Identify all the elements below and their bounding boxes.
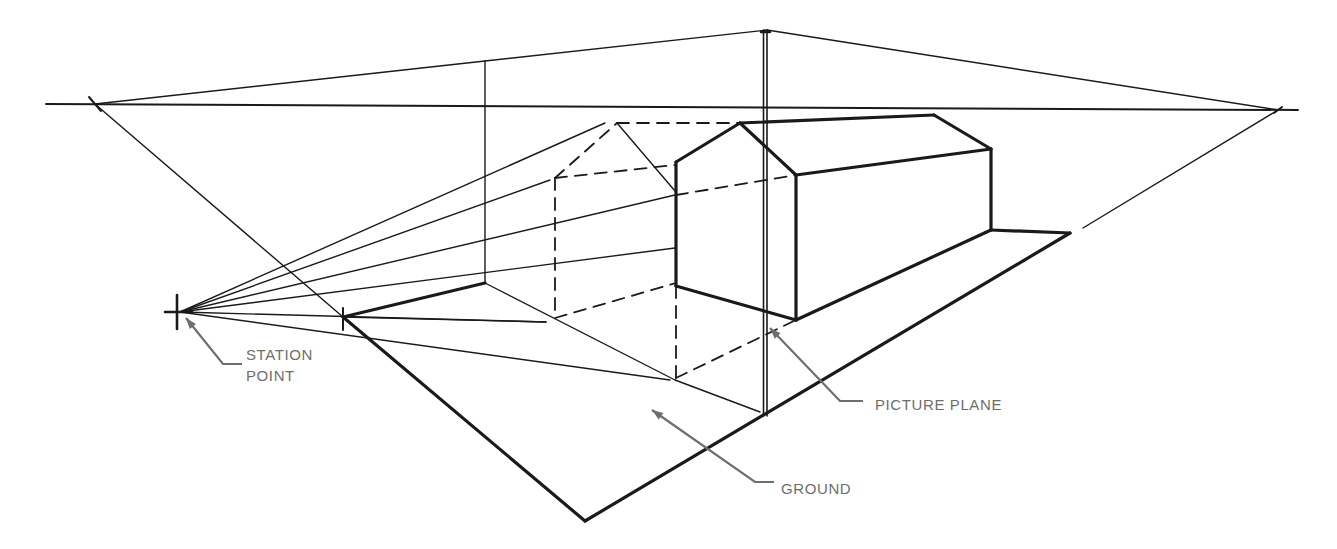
object-edge: [740, 123, 796, 175]
construction-line: [180, 180, 550, 312]
construction-line: [485, 30, 767, 61]
hidden-line: [555, 165, 675, 178]
station-point-marker: [165, 295, 192, 329]
object-edge: [991, 230, 1070, 233]
horizon-line: [46, 97, 1298, 113]
perspective-diagram: [0, 0, 1337, 549]
picture-plane-label-text: PICTURE PLANE: [875, 394, 1002, 415]
construction-line: [485, 283, 675, 380]
construction-line: [180, 248, 675, 312]
construction-line: [180, 123, 605, 312]
hidden-line: [676, 175, 796, 195]
arrowhead-icon: [652, 410, 663, 420]
construction-line: [617, 123, 675, 191]
station-point-label-line-1: STATION: [246, 344, 313, 365]
picture-plane: [761, 30, 770, 416]
construction-line: [675, 380, 760, 412]
thick-object-lines: [343, 115, 1070, 521]
construction-line: [1083, 110, 1278, 228]
object-edge: [343, 317, 585, 521]
object-edge: [676, 286, 796, 320]
hidden-line: [555, 283, 676, 318]
object-edge: [796, 230, 991, 320]
station-point-label: STATION POINT: [246, 344, 313, 386]
horizon-line: [46, 104, 1298, 110]
construction-line: [95, 61, 485, 104]
construction-line: [95, 104, 343, 317]
station-point-label-line-2: POINT: [246, 365, 313, 386]
object-edge: [740, 115, 934, 123]
ground-label: GROUND: [781, 478, 851, 499]
object-edge: [934, 115, 991, 149]
ground-label-text: GROUND: [781, 478, 851, 499]
hidden-line: [676, 320, 796, 378]
object-edge: [676, 123, 740, 162]
construction-line: [180, 195, 675, 312]
picture-plane-label: PICTURE PLANE: [875, 394, 1002, 415]
label-leaders: [186, 318, 863, 482]
construction-line: [343, 317, 546, 322]
construction-line: [767, 30, 1278, 110]
object-edge: [796, 149, 991, 175]
